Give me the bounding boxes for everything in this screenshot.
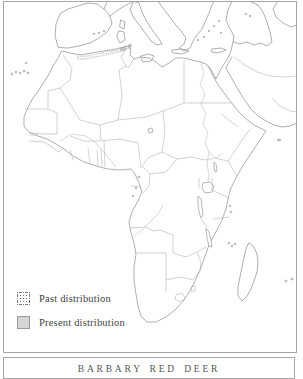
cyprus-island xyxy=(212,48,226,53)
italy-coastline xyxy=(130,2,162,45)
coastlines xyxy=(24,2,296,322)
indian-ocean-islands xyxy=(228,139,293,282)
sardinia-island xyxy=(117,31,125,43)
lake-tanganyika xyxy=(198,196,203,218)
congo-river xyxy=(133,205,163,237)
legend: Past distribution Present distribution xyxy=(17,292,125,340)
present-distribution-label: Present distribution xyxy=(39,317,125,328)
legend-item-present: Present distribution xyxy=(17,316,125,329)
past-distribution-label: Past distribution xyxy=(39,293,111,304)
country-borders xyxy=(25,47,296,302)
lake-malawi xyxy=(206,228,212,247)
balkans-greece-coastline xyxy=(158,2,214,51)
legend-item-past: Past distribution xyxy=(17,292,125,305)
nile-river xyxy=(200,64,223,182)
niger-river xyxy=(60,134,116,167)
aegean-islands xyxy=(197,13,250,41)
canary-islands xyxy=(11,62,29,75)
caption-bar: BARBARY RED DEER xyxy=(3,357,295,379)
lake-chad xyxy=(148,128,153,133)
iberia-coastline xyxy=(55,3,112,48)
small-islands xyxy=(11,13,293,282)
arabia-coastline xyxy=(226,57,296,127)
past-distribution-swatch xyxy=(17,292,30,305)
anatolia-coastline xyxy=(226,2,272,46)
black-sea-east-coastline xyxy=(273,2,296,27)
lake-turkana xyxy=(214,162,217,172)
madagascar-coastline xyxy=(238,243,258,301)
balearic-islands xyxy=(93,30,105,35)
corsica-island xyxy=(120,20,125,29)
map-panel: Past distribution Present distribution xyxy=(3,1,297,353)
lakes xyxy=(148,128,217,247)
present-distribution-swatch xyxy=(17,316,30,329)
caption-title: BARBARY RED DEER xyxy=(78,364,220,374)
